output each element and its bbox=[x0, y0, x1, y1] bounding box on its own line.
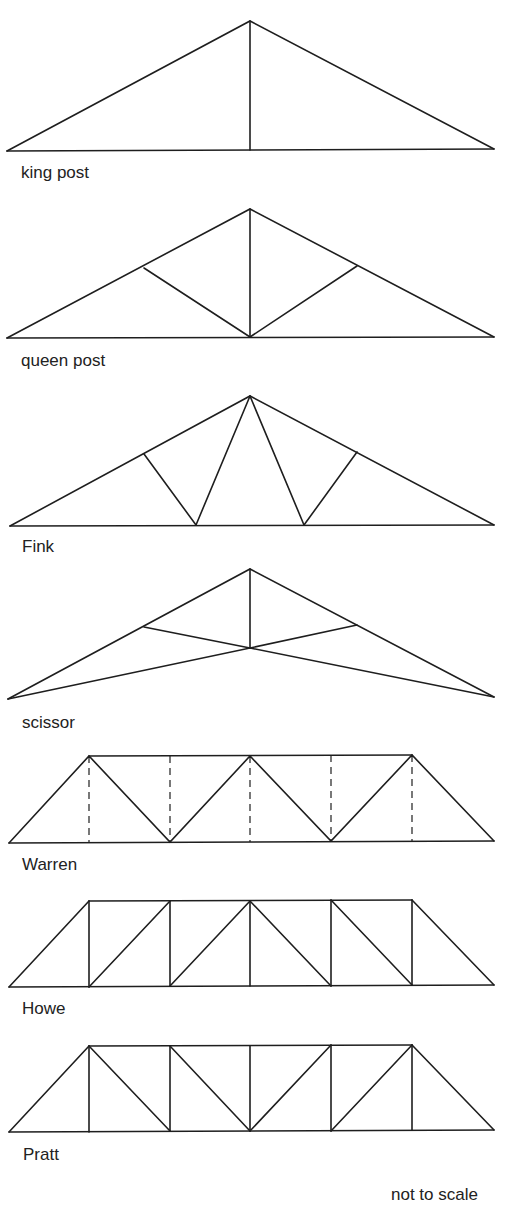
label-queen-post: queen post bbox=[21, 351, 105, 371]
label-warren: Warren bbox=[22, 855, 77, 875]
label-fink: Fink bbox=[22, 537, 54, 557]
truss-king-post bbox=[7, 21, 494, 151]
truss-pratt bbox=[9, 1045, 494, 1132]
truss-scissor bbox=[8, 569, 494, 699]
label-scissor: scissor bbox=[22, 713, 75, 733]
label-howe: Howe bbox=[22, 999, 65, 1019]
truss-warren bbox=[9, 755, 494, 843]
truss-fink bbox=[10, 396, 494, 526]
scale-note: not to scale bbox=[391, 1185, 478, 1205]
truss-queen-post bbox=[7, 209, 494, 338]
label-king-post: king post bbox=[21, 163, 89, 183]
label-pratt: Pratt bbox=[23, 1145, 59, 1165]
truss-howe bbox=[9, 900, 494, 987]
